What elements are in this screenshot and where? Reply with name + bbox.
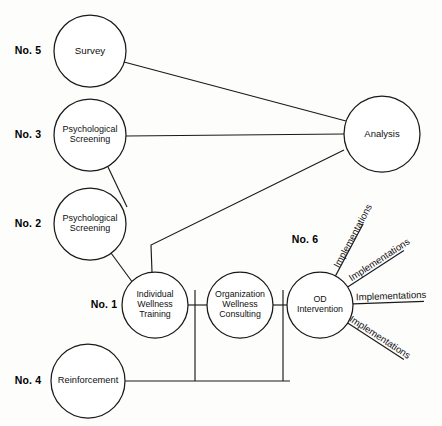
index-label-od-intervention: No. 6 [292, 233, 319, 245]
network-diagram: ImplementationsImplementationsImplementa… [0, 0, 442, 426]
index-label-reinforcement: No. 4 [15, 374, 42, 386]
node-psych-screening-2-label: PsychologicalScreening [62, 213, 117, 233]
psych3-to-analysis [126, 134, 344, 136]
index-label-psych-screening-2: No. 2 [15, 217, 42, 229]
node-organization-wellness-consulting-label: OrganizationWellnessConsulting [215, 290, 265, 319]
diagram-canvas: ImplementationsImplementationsImplementa… [0, 0, 442, 426]
node-reinforcement-label: Reinforcement [58, 375, 119, 385]
implementation-ray-4-label: Implementations [348, 313, 413, 361]
psych2-to-iwt [111, 253, 133, 283]
survey-to-analysis [124, 62, 346, 121]
node-psych-screening-3-label: PsychologicalScreening [62, 124, 117, 144]
node-individual-wellness-training-label: IndividualWellnessTraining [136, 290, 173, 319]
node-survey-label: Survey [75, 45, 106, 56]
iwt-to-analysis [151, 150, 344, 272]
index-label-psych-screening-3: No. 3 [15, 128, 42, 140]
implementation-rays-layer: ImplementationsImplementationsImplementa… [331, 202, 426, 361]
implementation-ray-3-label: Implementations [356, 289, 427, 302]
node-analysis-label: Analysis [364, 128, 400, 139]
index-label-individual-wellness-training: No. 1 [91, 298, 118, 310]
implementation-ray-2-label: Implementations [347, 236, 412, 284]
index-label-survey: No. 5 [15, 44, 42, 56]
